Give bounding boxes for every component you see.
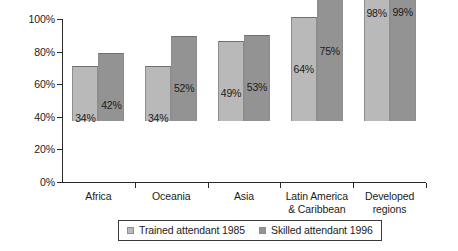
bar-1-4 xyxy=(390,0,416,121)
y-axis-tick-mark xyxy=(57,117,62,118)
x-axis-category-label: Oceania xyxy=(131,190,212,203)
y-axis-tick-mark xyxy=(57,19,62,20)
bar-value-label: 53% xyxy=(238,82,276,93)
grouped-bar-chart: 0%20%40%60%80%100% 34%42%34%52%49%53%64%… xyxy=(0,0,458,251)
x-axis-tick-mark-end xyxy=(426,183,427,188)
bar-1-2 xyxy=(244,35,270,121)
bar-value-label: 75% xyxy=(311,46,349,57)
x-axis-tick-mark xyxy=(280,183,281,188)
legend-item-1: Skilled attendant 1996 xyxy=(259,225,373,236)
x-axis-category-label: Asia xyxy=(204,190,285,203)
legend-label: Skilled attendant 1996 xyxy=(271,225,373,236)
bar-1-3 xyxy=(317,0,343,121)
y-axis-tick-mark xyxy=(57,149,62,150)
legend-item-0: Trained attendant 1985 xyxy=(127,225,245,236)
x-axis-category-label: Developed regions xyxy=(349,190,430,215)
legend-label: Trained attendant 1985 xyxy=(139,225,245,236)
x-axis-tick-mark xyxy=(353,183,354,188)
x-axis-category-label: Latin America & Caribbean xyxy=(276,190,357,215)
y-axis-tick-mark xyxy=(57,52,62,53)
bar-value-label: 42% xyxy=(92,100,130,111)
x-axis-tick-mark xyxy=(208,183,209,188)
x-axis-category-label: Africa xyxy=(58,190,139,203)
bar-1-1 xyxy=(171,36,197,121)
y-axis-tick-mark xyxy=(57,84,62,85)
legend-swatch-icon xyxy=(259,227,266,234)
bar-value-label: 99% xyxy=(384,7,422,18)
plot-area: 0%20%40%60%80%100% 34%42%34%52%49%53%64%… xyxy=(0,0,458,190)
bar-value-label: 52% xyxy=(165,83,203,94)
legend-swatch-icon xyxy=(127,227,134,234)
bars-layer: 34%42%34%52%49%53%64%75%98%99% xyxy=(0,0,458,190)
y-axis-tick-mark xyxy=(57,182,62,183)
bar-1-0 xyxy=(98,53,124,121)
chart-legend: Trained attendant 1985Skilled attendant … xyxy=(118,220,382,241)
x-axis-tick-mark xyxy=(135,183,136,188)
